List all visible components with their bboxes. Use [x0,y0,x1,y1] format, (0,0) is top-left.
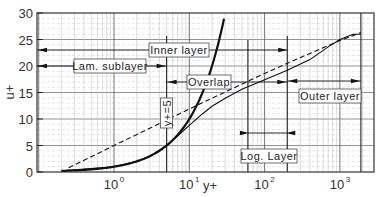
y-axis-ticks: 051015202530 [19,6,43,180]
x-tick-exponent: 2 [270,175,275,184]
y-tick-label: 20 [19,59,33,74]
y-axis-label: u+ [2,85,17,100]
x-tick-label: 10 [104,177,118,192]
overlap-label: Overlap [188,76,230,88]
velocity-profile-chart: Inner layerLam. sublayerOverlapOuter lay… [0,0,382,197]
y-plus-5-label: y+=5 [161,100,173,126]
x-tick-exponent: 3 [346,175,351,184]
arrow-head-icon [157,64,166,68]
arrow-head-icon [351,79,360,83]
inner-layer-label: Inner layer [150,44,207,56]
y-tick-label: 10 [19,112,33,127]
y-tick-label: 15 [19,86,33,101]
y-tick-label: 5 [26,139,33,154]
arrow-head-icon [38,48,47,52]
y-tick-label: 30 [19,6,33,21]
lam-sublayer-label: Lam. sublayer [72,60,148,72]
arrow-head-icon [168,80,177,84]
log-layer-label: Log. Layer [241,150,298,162]
y-tick-label: 25 [19,33,33,48]
arrow-head-icon [278,48,287,52]
outer-layer-label: Outer layer [300,90,360,102]
x-tick-exponent: 0 [120,175,125,184]
x-tick-label: 10 [179,177,193,192]
x-tick-exponent: 1 [195,175,200,184]
linear-law-curve [61,19,224,171]
x-axis-ticks: 100101102103 [104,175,351,192]
arrow-head-icon [288,79,297,83]
x-axis-label: y+ [203,178,217,193]
y-tick-label: 0 [26,165,33,180]
arrow-head-icon [277,80,286,84]
x-tick-label: 10 [330,177,344,192]
x-tick-label: 10 [254,177,268,192]
